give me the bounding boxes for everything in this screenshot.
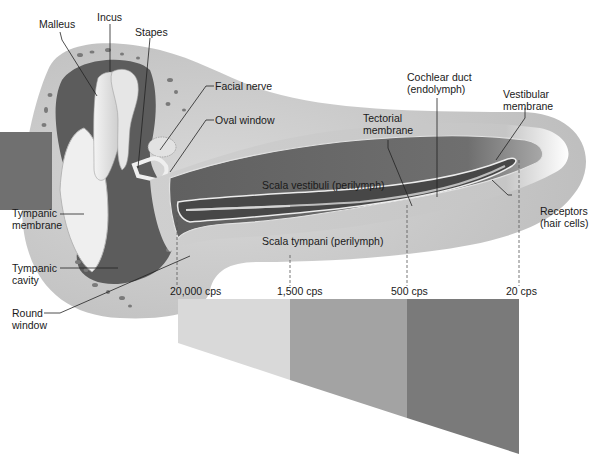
label-tympanic-cavity-line2: cavity — [12, 274, 57, 286]
label-round-window: Round window — [12, 307, 47, 331]
label-receptors-line1: Receptors — [540, 205, 588, 217]
ear-illustration — [0, 0, 598, 461]
freq-marker-20000: 20,000 cps — [170, 285, 221, 297]
freq-marker-20: 20 cps — [506, 285, 537, 297]
band-high — [178, 299, 290, 380]
label-vestibular-membrane-line2: membrane — [503, 100, 553, 112]
ear-canal — [0, 132, 52, 210]
label-stapes: Stapes — [135, 26, 168, 38]
label-receptors: Receptors (hair cells) — [540, 205, 588, 229]
band-low — [407, 299, 519, 454]
label-facial-nerve: Facial nerve — [215, 80, 272, 92]
freq-marker-1500: 1,500 cps — [277, 285, 323, 297]
label-tympanic-membrane: Tympanic membrane — [12, 207, 62, 231]
label-receptors-line2: (hair cells) — [540, 217, 588, 229]
label-tectorial-membrane: Tectorial membrane — [363, 112, 413, 136]
label-vestibular-membrane-line1: Vestibular — [503, 88, 553, 100]
label-malleus: Malleus — [39, 18, 75, 30]
label-scala-vestibuli: Scala vestibuli (perilymph) — [262, 179, 385, 191]
label-round-window-line2: window — [12, 319, 47, 331]
label-round-window-line1: Round — [12, 307, 47, 319]
label-tympanic-cavity: Tympanic cavity — [12, 262, 57, 286]
label-tympanic-cavity-line1: Tympanic — [12, 262, 57, 274]
label-scala-tympani: Scala tympani (perilymph) — [262, 235, 383, 247]
label-tectorial-membrane-line1: Tectorial — [363, 112, 413, 124]
label-oval-window: Oval window — [215, 114, 275, 126]
label-tympanic-membrane-line2: membrane — [12, 219, 62, 231]
label-tectorial-membrane-line2: membrane — [363, 124, 413, 136]
label-incus: Incus — [97, 11, 122, 23]
label-tympanic-membrane-line1: Tympanic — [12, 207, 62, 219]
label-vestibular-membrane: Vestibular membrane — [503, 88, 553, 112]
diagram-stage: Malleus Incus Stapes Facial nerve Oval w… — [0, 0, 598, 461]
freq-marker-500: 500 cps — [391, 285, 428, 297]
label-cochlear-duct-line1: Cochlear duct — [407, 71, 472, 83]
band-mid — [290, 299, 407, 418]
label-cochlear-duct-line2: (endolymph) — [407, 83, 472, 95]
label-cochlear-duct: Cochlear duct (endolymph) — [407, 71, 472, 95]
frequency-bands — [178, 299, 519, 454]
